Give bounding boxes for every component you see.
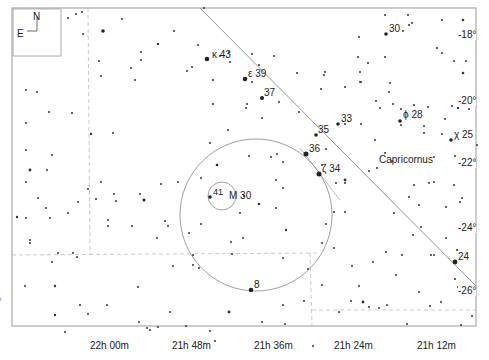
star-label-30: 30 (389, 24, 400, 34)
ra-label-22h00m: 22h 00m (88, 341, 131, 351)
compass-east-label: E (17, 28, 24, 39)
ra-label-21h24m: 21h 24m (332, 341, 375, 351)
star-label-zeta: ζ 34 (322, 164, 340, 174)
dec-label-minus22: -22° (458, 158, 476, 168)
ra-label-21h48m: 21h 48m (170, 341, 213, 351)
star-label-35: 35 (318, 125, 329, 135)
compass-north-label: N (33, 11, 40, 22)
constellation-label: Capricornus (379, 155, 433, 165)
star-label-33: 33 (341, 114, 352, 124)
dec-label-minus24: -24° (458, 223, 476, 233)
object-label-m30: M 30 (229, 191, 251, 201)
finder-circle (180, 139, 332, 291)
grid-lines (12, 8, 476, 326)
dec-label-minus26: -26° (458, 286, 476, 296)
star-label-phi: ϕ 28 (403, 110, 423, 120)
star-chart (0, 0, 489, 360)
star-label-36: 36 (309, 144, 320, 154)
star-label-kappa: κ 43 (212, 50, 231, 60)
dec-label-minus20: -20° (458, 96, 476, 106)
star-label-41: 41 (213, 188, 223, 197)
star-label-chi: χ 25 (454, 130, 473, 140)
ra-label-21h36m: 21h 36m (252, 341, 295, 351)
ecliptic-line (200, 8, 476, 286)
star-label-37: 37 (264, 88, 275, 98)
star-label-8: 8 (254, 280, 260, 290)
star-label-24: 24 (458, 252, 469, 262)
credit-label: Megastar (0, 279, 1, 312)
field-stars (16, 7, 478, 347)
dec-label-minus18: -18° (458, 30, 476, 40)
ra-label-21h12m: 21h 12m (415, 341, 458, 351)
star-label-epsilon: ε 39 (248, 69, 266, 79)
chart-frame (12, 8, 476, 326)
